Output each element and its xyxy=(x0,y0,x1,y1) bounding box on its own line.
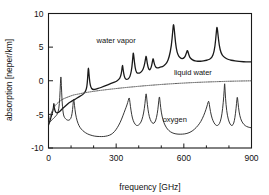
x-tick-label: 900 xyxy=(244,153,258,163)
x-tick-label: 600 xyxy=(177,153,191,163)
y-axis-title: absorption [neper/km] xyxy=(4,39,14,121)
y-tick-label: -10 xyxy=(31,143,44,153)
annotation-liquid-water: liquid water xyxy=(174,68,212,77)
annotation-water-vapor: water vapor xyxy=(96,36,137,45)
chart-canvas: 0300600900 1050-5-10 water vaporliquid w… xyxy=(0,0,269,195)
y-tick-label: 10 xyxy=(34,9,44,19)
y-tick-label: 5 xyxy=(39,42,44,52)
absorption-spectrum-figure: 0300600900 1050-5-10 water vaporliquid w… xyxy=(0,0,269,195)
y-tick-label: -5 xyxy=(36,110,44,120)
annotation-oxygen: oxygen xyxy=(163,115,187,124)
x-tick-label: 300 xyxy=(109,153,123,163)
figure-background xyxy=(0,0,269,195)
x-axis-title: frequency [GHz] xyxy=(119,182,180,192)
y-tick-label: 0 xyxy=(39,76,44,86)
x-tick-label: 0 xyxy=(46,153,51,163)
